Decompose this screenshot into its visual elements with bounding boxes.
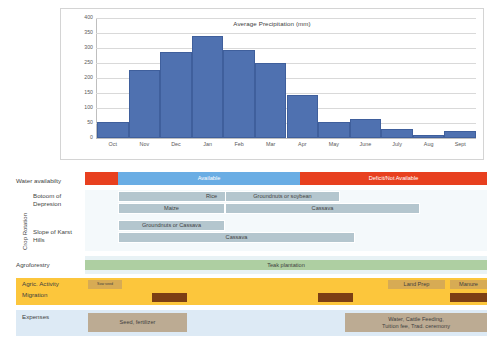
bar	[97, 122, 129, 138]
seasonal-calendar-figure: Average Precipitation (mm) 0501001502002…	[0, 0, 500, 344]
bar-series: OctNovDecJanFebMarAprMayJuneJulyAugSept	[97, 18, 476, 138]
x-axis-tick-label: Feb	[223, 141, 255, 147]
crop-rotation-bars: RiceGroundnuts or soybeanMaizeCassavaGro…	[0, 190, 500, 251]
x-axis-tick-label: June	[350, 141, 382, 147]
crop-rotation-segment: Cassava	[118, 232, 355, 243]
y-axis-tick-label: 200	[84, 75, 93, 80]
y-axis-tick-label: 100	[84, 105, 93, 110]
y-axis-tick-label: 250	[84, 60, 93, 65]
x-axis-tick-label: July	[381, 141, 413, 147]
x-axis-tick-label: Aug	[413, 141, 445, 147]
crop-rotation-segment: Maize	[118, 203, 225, 214]
agric-activity-segment: Manure	[450, 280, 487, 289]
migration-segment	[318, 293, 353, 302]
bar	[129, 70, 161, 138]
precipitation-chart: Average Precipitation (mm) 0501001502002…	[60, 8, 484, 160]
expenses-bars: Seed, fertilizerWater, Cattle Feeding, T…	[0, 310, 500, 336]
x-axis-tick-label: Apr	[287, 141, 319, 147]
crop-rotation-segment: Groundnuts or soybean	[225, 191, 340, 202]
x-axis-tick-label: Oct	[97, 141, 129, 147]
water-availability-segment: Deficit/Not Available	[300, 172, 487, 185]
y-axis-tick-label: 300	[84, 45, 93, 50]
crop-rotation-segment: Cassava	[225, 203, 420, 214]
y-axis-tick-label: 400	[84, 15, 93, 20]
x-axis-tick-label: May	[318, 141, 350, 147]
agroforestry-bars: Teak plantation	[0, 256, 500, 274]
migration-bars	[0, 291, 500, 305]
agric-activity-segment: Sow seed	[88, 280, 122, 289]
bar	[350, 119, 382, 139]
bar	[255, 63, 287, 138]
migration-segment	[152, 293, 187, 302]
migration-segment	[450, 293, 487, 302]
bar	[381, 129, 413, 138]
agric-activity-bars: Sow seedLand PrepManure	[0, 278, 500, 291]
gridline	[96, 138, 476, 139]
x-axis-tick-label: Dec	[160, 141, 192, 147]
water-availability-segment: Available	[118, 172, 300, 185]
water-availability-band: AvailableDeficit/Not Available	[85, 172, 487, 185]
bar	[413, 135, 445, 138]
expenses-segment: Seed, fertilizer	[88, 313, 187, 332]
bar	[444, 131, 476, 138]
bar	[223, 50, 255, 138]
x-axis-tick-label: Nov	[129, 141, 161, 147]
y-axis-tick-label: 150	[84, 90, 93, 95]
x-axis-tick-label: Sept	[444, 141, 476, 147]
bar	[318, 122, 350, 139]
chart-plot-area: 050100150200250300350400 OctNovDecJanFeb…	[96, 18, 476, 138]
bar	[192, 36, 224, 138]
agric-activity-segment: Land Prep	[388, 280, 445, 289]
y-axis-tick-label: 50	[87, 120, 93, 125]
bar	[160, 52, 192, 138]
x-axis-tick-label: Mar	[255, 141, 287, 147]
expenses-segment: Water, Cattle Feeding, Tuition fee, Trad…	[345, 313, 487, 332]
bar	[287, 95, 319, 138]
crop-rotation-segment: Groundnuts or Cassava	[118, 220, 225, 231]
agroforestry-segment: Teak plantation	[85, 260, 487, 270]
y-axis-tick-label: 0	[90, 135, 93, 140]
x-axis-tick-label: Jan	[192, 141, 224, 147]
y-axis-tick-label: 350	[84, 30, 93, 35]
row-label-water-availability: Water availabilty	[16, 177, 86, 185]
water-availability-segment	[85, 172, 118, 185]
